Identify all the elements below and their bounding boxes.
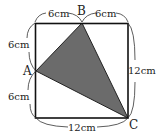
- dim-label-left-upper: 6cm: [8, 39, 30, 50]
- point-label-c: C: [129, 118, 138, 132]
- dim-label-top-left: 6cm: [48, 8, 70, 19]
- dim-label-top-right: 6cm: [95, 8, 117, 19]
- shaded-triangle-abc: [36, 23, 128, 118]
- point-label-a: A: [22, 64, 32, 78]
- geometry-diagram: 6cm 6cm 6cm 6cm 12cm 12cm A B C: [0, 0, 160, 138]
- dim-label-bottom: 12cm: [68, 122, 96, 133]
- dim-label-left-lower: 6cm: [8, 91, 30, 102]
- dim-label-right: 12cm: [128, 65, 156, 76]
- point-label-b: B: [77, 4, 86, 18]
